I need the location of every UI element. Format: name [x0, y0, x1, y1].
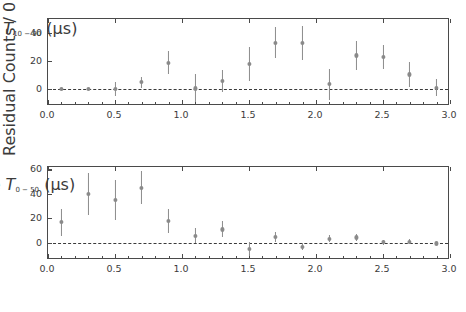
x-tick-label: 0.5 [106, 263, 121, 274]
data-point [383, 167, 384, 260]
y-tick-label: 0 [0, 236, 42, 247]
x-minor-tick [396, 256, 397, 258]
data-marker [408, 72, 412, 76]
data-point [356, 19, 357, 106]
x-minor-tick [396, 102, 397, 104]
data-marker [167, 60, 171, 64]
y-tick-mark [48, 243, 52, 244]
data-marker [220, 227, 224, 231]
data-marker [354, 235, 358, 239]
data-marker [113, 87, 117, 91]
data-marker [301, 244, 305, 248]
x-minor-tick [209, 102, 210, 104]
x-tick-label: 0.0 [39, 263, 54, 274]
data-marker [274, 235, 278, 239]
data-marker [113, 198, 117, 202]
x-minor-tick [423, 256, 424, 258]
x-minor-tick [236, 102, 237, 104]
x-minor-tick [343, 102, 344, 104]
x-minor-tick [262, 102, 263, 104]
data-marker [274, 41, 278, 45]
x-tick-mark [316, 254, 317, 258]
x-tick-mark-top [316, 19, 317, 23]
data-point [249, 167, 250, 260]
y-tick-mark [48, 89, 52, 90]
x-minor-tick [236, 256, 237, 258]
data-point [329, 167, 330, 260]
x-tick-mark-top [182, 167, 183, 171]
y-tick-label: 20 [0, 212, 42, 223]
x-minor-tick [102, 102, 103, 104]
y-axis-title-bottom: Residual Counts / 0.20 μs [0, 63, 19, 156]
x-minor-tick [155, 102, 156, 104]
y-tick-label: 40 [0, 187, 42, 198]
x-tick-mark [450, 100, 451, 104]
x-minor-tick [262, 256, 263, 258]
data-point [302, 19, 303, 106]
data-point [409, 19, 410, 106]
x-minor-tick [370, 256, 371, 258]
x-tick-mark [182, 100, 183, 104]
data-marker [193, 233, 197, 237]
data-point [275, 167, 276, 260]
data-point [383, 19, 384, 106]
x-tick-mark-top [450, 167, 451, 171]
x-tick-mark [48, 254, 49, 258]
panel-bottom-rise-time-0-50: Residual Counts / 0.20 μs Rise-time T0 −… [0, 156, 466, 312]
x-minor-tick [75, 102, 76, 104]
x-tick-mark [316, 100, 317, 104]
x-tick-label: 2.0 [307, 263, 322, 274]
data-marker [327, 236, 331, 240]
x-tick-label: 1.0 [173, 263, 188, 274]
data-marker [435, 241, 439, 245]
data-marker [59, 87, 63, 91]
data-marker [167, 219, 171, 223]
data-marker [327, 82, 331, 86]
data-marker [59, 220, 63, 224]
x-tick-label: 3.0 [441, 263, 456, 274]
data-marker [247, 62, 251, 66]
x-tick-label: 2.5 [374, 263, 389, 274]
x-tick-mark-top [450, 19, 451, 23]
data-point [356, 167, 357, 260]
data-point [409, 167, 410, 260]
x-tick-mark [182, 254, 183, 258]
x-tick-label: 3.0 [441, 109, 456, 120]
data-marker [354, 53, 358, 57]
data-point [436, 167, 437, 260]
x-tick-label: 1.5 [240, 109, 255, 120]
data-point [302, 167, 303, 260]
x-minor-tick [209, 256, 210, 258]
x-tick-label: 2.5 [374, 109, 389, 120]
data-point [329, 19, 330, 106]
y-tick-mark [48, 194, 52, 195]
x-tick-mark [48, 100, 49, 104]
x-tick-mark-top [316, 167, 317, 171]
data-marker [247, 247, 251, 251]
y-tick-label: 60 [0, 163, 42, 174]
data-marker [140, 80, 144, 84]
x-minor-tick [102, 256, 103, 258]
y-tick-mark [48, 218, 52, 219]
x-minor-tick [423, 102, 424, 104]
x-tick-mark-top [48, 167, 49, 171]
x-minor-tick [128, 256, 129, 258]
data-marker [381, 55, 385, 59]
x-minor-tick [155, 256, 156, 258]
x-tick-label: 0.5 [106, 109, 121, 120]
x-minor-tick [75, 256, 76, 258]
x-minor-tick [289, 256, 290, 258]
data-marker [220, 79, 224, 83]
x-tick-label: 0.0 [39, 109, 54, 120]
data-point [249, 19, 250, 106]
panel-top-rise-time-10-90: Residual Counts / 0.20 μs Rise-time T10 … [0, 0, 466, 156]
x-minor-tick [128, 102, 129, 104]
data-point [275, 19, 276, 106]
data-marker [86, 87, 90, 91]
x-minor-tick [370, 102, 371, 104]
data-marker [301, 41, 305, 45]
x-tick-mark [450, 254, 451, 258]
x-tick-label: 2.0 [307, 109, 322, 120]
figure-residual-counts-rise-time: Residual Counts / 0.20 μs Rise-time T10 … [0, 0, 466, 312]
x-minor-tick [343, 256, 344, 258]
